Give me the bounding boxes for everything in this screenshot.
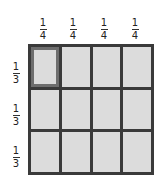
row-label-1: 1 3 (9, 62, 23, 85)
column-label-4: 1 4 (128, 18, 142, 41)
numerator: 1 (101, 18, 107, 28)
grid-cell (93, 132, 121, 172)
column-label-3: 1 4 (97, 18, 111, 41)
grid-cell (62, 90, 90, 130)
row-label-2: 1 3 (9, 104, 23, 127)
numerator: 1 (70, 18, 76, 28)
numerator: 1 (13, 146, 19, 156)
grid-cell (31, 132, 59, 172)
grid-cell (31, 90, 59, 130)
grid-cell (123, 90, 151, 130)
numerator: 1 (13, 104, 19, 114)
numerator: 1 (13, 62, 19, 72)
denominator: 4 (132, 31, 138, 41)
grid-cell-highlighted (31, 47, 59, 87)
grid-cell (123, 132, 151, 172)
denominator: 3 (13, 117, 19, 127)
denominator: 4 (40, 31, 46, 41)
denominator: 3 (13, 159, 19, 169)
numerator: 1 (40, 18, 46, 28)
grid-cell (62, 47, 90, 87)
denominator: 4 (101, 31, 107, 41)
grid-cell (123, 47, 151, 87)
grid-cell (62, 132, 90, 172)
area-model-grid (28, 44, 154, 175)
denominator: 4 (70, 31, 76, 41)
grid-cell (93, 90, 121, 130)
denominator: 3 (13, 75, 19, 85)
column-label-2: 1 4 (66, 18, 80, 41)
grid-cell (93, 47, 121, 87)
numerator: 1 (132, 18, 138, 28)
column-label-1: 1 4 (36, 18, 50, 41)
row-label-3: 1 3 (9, 146, 23, 169)
